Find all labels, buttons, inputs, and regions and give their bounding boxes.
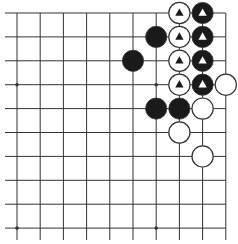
white-stone — [192, 98, 213, 119]
black-stone-marked — [192, 2, 213, 23]
black-stone — [146, 98, 167, 119]
black-stone-marked — [192, 50, 213, 71]
black-stone-marked — [192, 74, 213, 95]
white-stone-marked — [169, 26, 190, 47]
black-stone — [146, 26, 167, 47]
white-stone — [192, 146, 213, 167]
white-stone — [169, 122, 190, 143]
star-point — [154, 83, 158, 87]
star-point — [154, 226, 158, 230]
star-point — [15, 83, 19, 87]
black-stone — [122, 50, 143, 71]
white-stone — [215, 74, 236, 95]
go-board — [0, 0, 238, 244]
black-stone — [169, 98, 190, 119]
white-stone-marked — [169, 74, 190, 95]
white-stone-marked — [169, 50, 190, 71]
black-stone-marked — [192, 26, 213, 47]
board-grid — [5, 13, 226, 240]
star-point — [15, 226, 19, 230]
white-stone-marked — [169, 2, 190, 23]
